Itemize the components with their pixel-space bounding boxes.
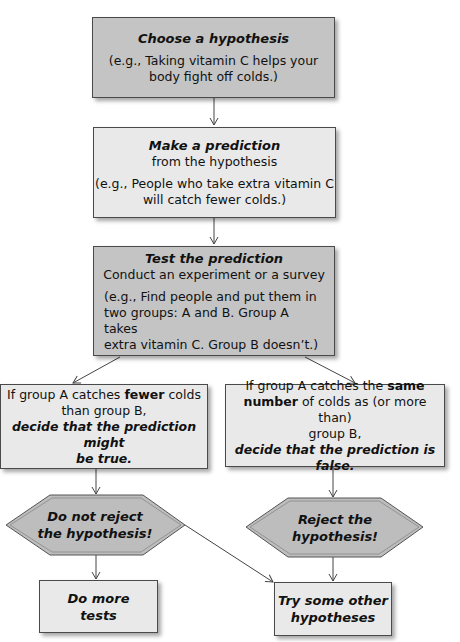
decision-text: Reject the: [298, 511, 372, 528]
step-title: Test the prediction: [145, 250, 283, 267]
text: of colds as (or more than): [298, 394, 427, 425]
outcome-fewer-colds: If group A catches fewer colds than grou…: [0, 384, 208, 469]
step-subtitle: Conduct an experiment or a survey: [103, 267, 325, 283]
decision-text: hypothesis!: [292, 528, 378, 545]
result-text: Do more: [68, 590, 130, 607]
result-try-other-hypotheses: Try some other hypotheses: [274, 582, 392, 636]
step-title: Make a prediction: [149, 137, 280, 154]
outcome-same-colds: If group A catches the same number of co…: [225, 384, 445, 467]
text: If group A catches: [7, 387, 124, 402]
text: colds: [164, 387, 200, 402]
decision-right-label: Reject the hypothesis!: [270, 506, 400, 550]
outcome-condition: If group A catches fewer colds: [7, 387, 201, 403]
text: If group A catches the: [245, 378, 387, 393]
result-text: hypotheses: [291, 609, 376, 626]
result-do-more-tests: Do more tests: [39, 580, 158, 633]
step-example: will catch fewer colds.): [143, 192, 286, 208]
outcome-condition: group B,: [309, 426, 362, 442]
outcome-condition: If group A catches the same: [245, 378, 424, 394]
decision-text: the hypothesis!: [38, 525, 153, 542]
step-example: (e.g., People who take extra vitamin C: [95, 176, 334, 192]
outcome-condition: than group B,: [61, 403, 146, 419]
step-subtitle: from the hypothesis: [152, 154, 277, 170]
decision-text: Do not reject: [47, 508, 143, 525]
step-example: extra vitamin C. Group B doesn’t.): [104, 337, 324, 353]
result-text: Try some other: [278, 592, 388, 609]
outcome-conclusion: be true.: [76, 451, 132, 467]
decision-left-label: Do not reject the hypothesis!: [30, 503, 160, 547]
step-test-prediction: Test the prediction Conduct an experimen…: [93, 246, 335, 356]
step-example: two groups: A and B. Group A takes: [104, 305, 324, 337]
outcome-condition: number of colds as (or more than): [226, 394, 444, 426]
step-example: body fight off colds.): [149, 69, 278, 85]
step-choose-hypothesis: Choose a hypothesis (e.g., Taking vitami…: [92, 17, 335, 98]
outcome-conclusion: decide that the prediction is false.: [226, 442, 444, 474]
emphasis: same: [387, 378, 424, 393]
emphasis: fewer: [124, 387, 164, 402]
emphasis: number: [244, 394, 298, 409]
step-example: (e.g., Find people and put them in: [104, 289, 324, 305]
step-example: (e.g., Taking vitamin C helps your: [109, 53, 318, 69]
step-title: Choose a hypothesis: [138, 30, 289, 47]
outcome-conclusion: decide that the prediction might: [1, 419, 207, 451]
step-make-prediction: Make a prediction from the hypothesis (e…: [93, 127, 336, 218]
result-text: tests: [80, 607, 117, 624]
